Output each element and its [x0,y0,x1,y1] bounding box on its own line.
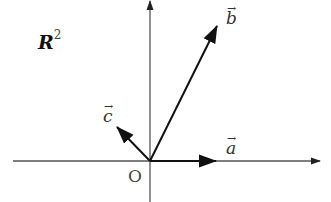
space-exponent: 2 [54,28,62,42]
vector-arrow-accent: → [104,101,113,112]
vector-diagram: R2 → b → c → a O [0,0,331,202]
vector-arrow-accent: → [227,3,236,14]
vector-c-arrow [117,127,150,161]
vector-arrow-accent: → [227,133,236,144]
space-label: R2 [38,33,61,52]
vector-a-label: → a [226,140,236,157]
vector-c-label: → c [103,108,113,125]
vector-b-label: → b [226,10,237,27]
space-base: R [38,31,54,53]
origin-label: O [128,168,142,185]
vector-b-arrow [150,26,217,161]
